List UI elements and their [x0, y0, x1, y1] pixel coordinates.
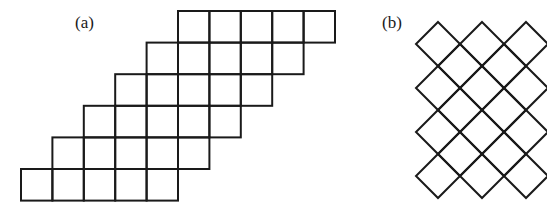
diamond-cell — [482, 88, 526, 132]
panel-a-label: (a) — [75, 14, 94, 31]
grid-cell — [209, 11, 240, 43]
grid-cell — [241, 11, 272, 43]
grid-cell — [84, 169, 115, 201]
grid-cell — [304, 11, 335, 43]
grid-cell — [84, 137, 115, 169]
panel-a-staircase-grid — [21, 11, 335, 201]
grid-cell — [84, 106, 115, 138]
grid-cell — [147, 169, 178, 201]
diamond-cell — [416, 154, 460, 198]
grid-cell — [178, 74, 209, 106]
diamond-cell — [460, 154, 504, 198]
grid-cell — [115, 169, 146, 201]
diamond-cell — [504, 110, 547, 154]
diamond-cell — [460, 22, 504, 66]
grid-cell — [115, 74, 146, 106]
grid-cell — [115, 106, 146, 138]
diamond-cell — [504, 66, 547, 110]
grid-cell — [52, 169, 83, 201]
grid-cell — [178, 106, 209, 138]
grid-cell — [209, 106, 240, 138]
grid-cell — [115, 137, 146, 169]
grid-cell — [272, 11, 303, 43]
panel-b-label: (b) — [382, 14, 402, 31]
figure: (a) (b) — [0, 0, 547, 208]
grid-cell — [52, 137, 83, 169]
diamond-cell — [504, 22, 547, 66]
grid-cell — [21, 169, 52, 201]
diamond-cell — [416, 22, 460, 66]
grid-cell — [178, 43, 209, 75]
grid-cell — [241, 74, 272, 106]
diamond-cell — [504, 154, 547, 198]
grid-cell — [241, 43, 272, 75]
diamond-cell — [416, 66, 460, 110]
diamond-cell — [482, 44, 526, 88]
diamond-cell — [438, 132, 482, 176]
grid-cell — [272, 43, 303, 75]
diamond-cell — [438, 44, 482, 88]
panel-b-diamond-grid — [416, 22, 547, 198]
grid-cell — [209, 74, 240, 106]
grid-cell — [178, 11, 209, 43]
grid-cell — [147, 43, 178, 75]
grid-cell — [209, 43, 240, 75]
diamond-cell — [416, 110, 460, 154]
diamond-cell — [460, 66, 504, 110]
diamond-cell — [482, 132, 526, 176]
diamond-cell — [438, 88, 482, 132]
grid-cell — [178, 137, 209, 169]
diamond-cell — [460, 110, 504, 154]
grid-cell — [147, 137, 178, 169]
grid-cell — [147, 74, 178, 106]
grid-cell — [147, 106, 178, 138]
